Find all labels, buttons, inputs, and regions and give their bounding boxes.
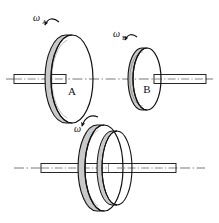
omega-b-annotation: ω B	[113, 28, 137, 42]
shaft-through-hub	[109, 164, 117, 173]
mechanics-figure: A ω A B ω B	[0, 0, 219, 223]
disc-a-face	[51, 35, 93, 123]
disc-b-face	[133, 48, 161, 110]
omega-a-arrow	[45, 19, 59, 25]
disc-b-label: B	[143, 83, 150, 95]
disc-a-label: A	[68, 85, 76, 97]
omega-a-annotation: ω A	[33, 12, 59, 26]
disc-a	[45, 35, 93, 123]
omega-combined-label: ω	[74, 123, 81, 134]
omega-b-label: ω	[113, 28, 120, 39]
omega-combined-arrow	[82, 116, 98, 126]
upper-assembly: A ω A B ω B	[6, 12, 213, 123]
omega-a-label: ω	[33, 12, 40, 23]
omega-b-arrow	[125, 35, 137, 40]
figure-canvas: A ω A B ω B	[0, 0, 219, 223]
disc-b	[128, 48, 161, 110]
shaft-right	[154, 75, 206, 84]
lower-assembly: ω	[14, 116, 205, 211]
